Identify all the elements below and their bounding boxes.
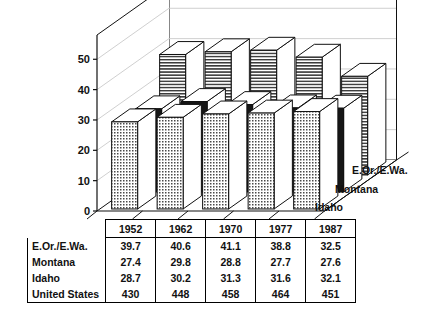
table-cell: 31.3 (206, 270, 256, 286)
depth-label-e-or-e-wa: E.Or./E.Wa. (352, 164, 408, 176)
bar-chart-3d: 01020304050 (0, 0, 425, 230)
y-axis-tick-label: 50 (78, 53, 90, 65)
y-axis-tick-label: 40 (78, 84, 90, 96)
bar-side-face (368, 63, 386, 175)
table-row: E.Or./E.Wa.39.740.641.138.832.5 (28, 238, 356, 255)
y-axis-tick-label: 0 (84, 205, 90, 217)
bar-idaho-1977 (248, 100, 292, 209)
table-cell: 31.6 (256, 270, 306, 286)
y-axis-tick-label: 30 (78, 114, 90, 126)
bar-front-face (203, 114, 229, 209)
table-cell: 458 (206, 286, 256, 303)
chart-figure: Billion cubic feet 01020304050 E.Or./E.W… (0, 0, 425, 314)
table-col-header: 1987 (306, 220, 356, 238)
bar-side-face (138, 109, 156, 209)
depth-label-idaho: Idaho (315, 201, 343, 213)
table-col-header: 1952 (106, 220, 156, 238)
bar-front-face (248, 113, 274, 209)
table-row-label: Idaho (28, 270, 106, 286)
table-cell: 27.6 (306, 254, 356, 270)
table-cell: 451 (306, 286, 356, 303)
depth-axis-tick (397, 152, 409, 160)
bar-side-face (183, 104, 201, 209)
table-cell: 41.1 (206, 238, 256, 255)
table-col-header: 1962 (156, 220, 206, 238)
table-col-header: 1977 (256, 220, 306, 238)
table-row: Idaho28.730.231.331.632.1 (28, 270, 356, 286)
bar-idaho-1987 (294, 99, 338, 209)
table-cell: 27.7 (256, 254, 306, 270)
table-cell: 39.7 (106, 238, 156, 255)
bar-idaho-1962 (157, 104, 201, 209)
table-col-header: 1970 (206, 220, 256, 238)
table-row: United States430448458464451 (28, 286, 356, 303)
table-cell: 430 (106, 286, 156, 303)
data-table: 1952 1962 1970 1977 1987 E.Or./E.Wa.39.7… (27, 219, 356, 303)
table-cell: 30.2 (156, 270, 206, 286)
table-cell: 32.1 (306, 270, 356, 286)
table-cell: 40.6 (156, 238, 206, 255)
table-cell: 29.8 (156, 254, 206, 270)
table-cell: 448 (156, 286, 206, 303)
table-row-label: E.Or./E.Wa. (28, 238, 106, 255)
x-axis-separator (133, 211, 143, 219)
table-row-label: Montana (28, 254, 106, 270)
y-axis-tick-label: 20 (78, 144, 90, 156)
x-axis-separator (178, 211, 188, 219)
table-cell: 27.4 (106, 254, 156, 270)
table-header-row: 1952 1962 1970 1977 1987 (28, 220, 356, 238)
x-axis-separator (224, 211, 234, 219)
table-row: Montana27.429.828.827.727.6 (28, 254, 356, 270)
bar-side-face (344, 95, 362, 192)
bar-front-face (157, 117, 183, 209)
table-corner-cell (28, 220, 106, 238)
bar-idaho-1952 (112, 109, 156, 209)
table-cell: 464 (256, 286, 306, 303)
table-cell: 28.7 (106, 270, 156, 286)
table-cell: 38.8 (256, 238, 306, 255)
bar-side-face (274, 100, 292, 209)
bar-idaho-1970 (203, 101, 247, 209)
bar-side-face (229, 101, 247, 209)
bar-front-face (112, 122, 138, 209)
bar-front-face (294, 112, 320, 209)
table-cell: 32.5 (306, 238, 356, 255)
depth-label-montana: Montana (335, 183, 378, 195)
table-cell: 28.8 (206, 254, 256, 270)
y-axis-tick-label: 10 (78, 175, 90, 187)
x-axis-separator (269, 211, 279, 219)
table-row-label: United States (28, 286, 106, 303)
